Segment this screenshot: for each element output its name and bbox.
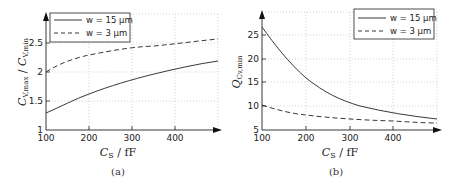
chart-a-xtick: 300	[123, 133, 140, 143]
chart-a-xlabel: CS / fF	[100, 146, 137, 160]
chart-b-xtick: 200	[297, 133, 314, 143]
chart-a-series-w3	[46, 39, 218, 72]
chart-b-xtick: 400	[384, 133, 401, 143]
chart-b-series-w3	[262, 105, 437, 123]
chart-b-x-arrow-icon	[433, 127, 442, 133]
figure: 100 200 300 400 1 1.5 2 2.5 w = 15 μm w …	[0, 0, 452, 184]
chart-b-ytick: 10	[248, 101, 260, 111]
chart-b-ytick: 20	[248, 54, 260, 64]
chart-b: 100 200 300 400 5 10 15 20 25 w = 15 μm …	[230, 9, 442, 177]
chart-a: 100 200 300 400 1 1.5 2 2.5 w = 15 μm w …	[16, 12, 222, 177]
chart-b-series-w15	[262, 27, 437, 119]
chart-b-xtick: 300	[341, 133, 358, 143]
chart-b-ylabel: QCv,min	[230, 55, 244, 89]
chart-a-x-arrow-icon	[213, 127, 222, 133]
chart-a-legend-label: w = 3 μm	[86, 28, 127, 38]
chart-b-xlabel: CS / fF	[322, 146, 359, 160]
chart-b-legend-label: w = 15 μm	[390, 13, 437, 23]
chart-a-ytick: 2	[37, 67, 43, 77]
chart-b-legend-label: w = 3 μm	[390, 26, 431, 36]
chart-b-ytick: 15	[248, 77, 259, 87]
chart-a-y-arrow-icon	[43, 12, 49, 21]
chart-b-caption: (b)	[329, 166, 343, 177]
chart-a-ytick: 1.5	[29, 96, 43, 106]
chart-a-xtick: 200	[80, 133, 97, 143]
chart-b-y-arrow-icon	[259, 10, 265, 19]
chart-a-ytick: 1	[37, 125, 43, 135]
chart-b-legend: w = 15 μm w = 3 μm	[354, 9, 437, 39]
chart-a-legend: w = 15 μm w = 3 μm	[50, 13, 133, 42]
chart-a-caption: (a)	[111, 166, 125, 177]
chart-b-ytick: 25	[248, 30, 259, 40]
chart-a-ylabel: CV,max / CV,min	[16, 38, 30, 106]
chart-a-xtick: 400	[166, 133, 183, 143]
chart-a-legend-label: w = 15 μm	[86, 15, 133, 25]
chart-a-ytick: 2.5	[29, 38, 43, 48]
chart-b-ytick: 5	[253, 125, 259, 135]
